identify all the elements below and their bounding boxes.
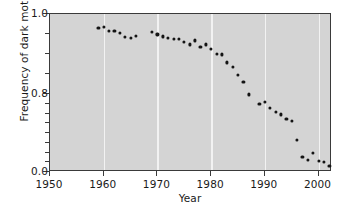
data-point — [193, 39, 196, 42]
plot-area — [49, 13, 331, 171]
gridline-1970 — [157, 14, 159, 170]
data-point — [107, 30, 110, 33]
data-point — [279, 113, 282, 116]
data-point — [226, 61, 229, 64]
data-point — [231, 65, 234, 68]
x-axis-title: Year — [49, 192, 331, 204]
data-point — [322, 160, 325, 163]
data-point — [269, 106, 272, 109]
data-point — [220, 53, 223, 56]
gridline-1980 — [211, 14, 213, 170]
x-tick-1970 — [156, 171, 157, 176]
data-point — [295, 138, 298, 141]
x-tick-label-1960: 1960 — [78, 178, 128, 190]
data-point — [236, 73, 239, 76]
data-point — [124, 35, 127, 38]
data-point — [290, 119, 293, 122]
x-tick-1980 — [210, 171, 211, 176]
data-point — [306, 159, 309, 162]
data-point — [129, 36, 132, 39]
data-point — [301, 155, 304, 158]
data-point — [328, 165, 331, 168]
data-point — [188, 43, 191, 46]
data-point — [312, 151, 315, 154]
data-point — [172, 37, 175, 40]
moth-frequency-scatter-chart: Frequency of dark moths Year 1.00.80.019… — [0, 0, 337, 208]
x-tick-1960 — [103, 171, 104, 176]
data-point — [204, 43, 207, 46]
data-point — [247, 93, 250, 96]
x-tick-label-1950: 1950 — [24, 178, 74, 190]
data-point — [285, 117, 288, 120]
data-point — [177, 38, 180, 41]
data-point — [215, 52, 218, 55]
gridline-1960 — [104, 14, 106, 170]
y-axis-title: Frequency of dark moths — [18, 0, 30, 130]
data-point — [274, 110, 277, 113]
x-tick-label-2000: 2000 — [293, 178, 337, 190]
x-tick-1990 — [264, 171, 265, 176]
data-point — [113, 29, 116, 32]
data-point — [242, 80, 245, 83]
data-point — [134, 34, 137, 37]
data-point — [150, 30, 153, 33]
data-point — [258, 102, 261, 105]
x-tick-1950 — [49, 171, 50, 176]
data-point — [199, 45, 202, 48]
data-point — [118, 32, 121, 35]
x-tick-2000 — [318, 171, 319, 176]
data-point — [97, 26, 100, 29]
y-tick-label-1: 1.0 — [8, 8, 48, 18]
x-tick-label-1980: 1980 — [185, 178, 235, 190]
data-point — [183, 40, 186, 43]
x-tick-label-1970: 1970 — [131, 178, 181, 190]
x-tick-label-1990: 1990 — [239, 178, 289, 190]
gridline-1990 — [265, 14, 267, 170]
data-point — [161, 35, 164, 38]
gridline-2000 — [319, 14, 321, 170]
data-point — [167, 36, 170, 39]
y-tick-label-0: 0.0 — [8, 166, 48, 176]
y-tick-label-0.8: 0.8 — [8, 88, 48, 98]
